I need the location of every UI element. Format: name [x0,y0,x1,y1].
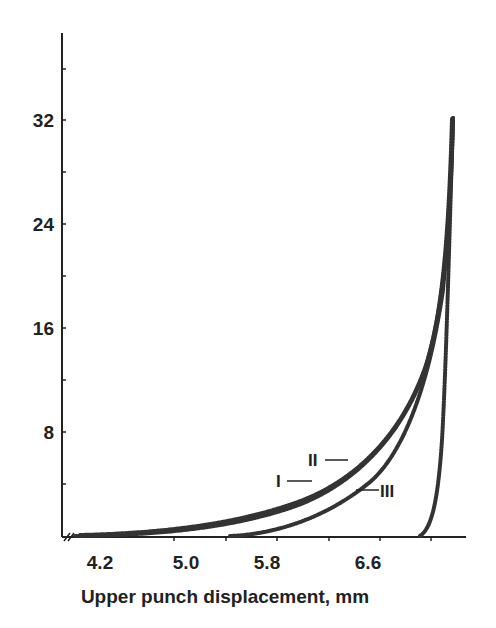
chart: 32 24 16 8 4.2 5.0 5.8 6.6 Upper punch d… [0,0,496,628]
y-tick-24: 24 [33,214,55,235]
x-tick-5.8: 5.8 [254,552,280,573]
curve-label-I: I [276,472,281,491]
curve-label-II: II [308,451,317,470]
y-tick-16: 16 [33,318,54,339]
curve-II [80,118,453,535]
y-tick-8: 8 [43,422,54,443]
curve-I [75,118,452,536]
curve-III [230,118,453,536]
x-axis-label: Upper punch displacement, mm [81,586,369,607]
x-tick-5.0: 5.0 [173,552,199,573]
x-tick-4.2: 4.2 [87,552,113,573]
x-tick-6.6: 6.6 [355,552,381,573]
curve-label-III: III [380,482,394,501]
y-tick-32: 32 [33,110,54,131]
y-axis [62,33,66,537]
